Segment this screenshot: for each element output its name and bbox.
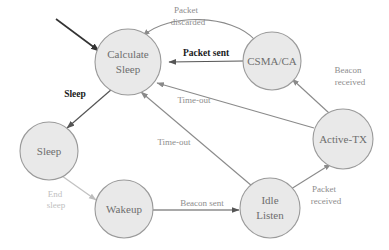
edge-active-to-csma (292, 79, 329, 113)
edge-label-packet-discarded-line1: Packet (174, 5, 198, 15)
edge-label-packet-received-line2: received (311, 196, 342, 206)
edge-start-entry (56, 19, 99, 51)
edge-label-beacon-received-line2: received (335, 77, 366, 87)
edge-label-packet-discarded-line2: discarded (171, 17, 206, 27)
node-idle-listen-label-line1: Idle (261, 194, 278, 206)
node-sleep[interactable]: Sleep (20, 122, 78, 180)
node-calculate-sleep-label-line2: Sleep (116, 63, 141, 75)
node-calculate-sleep-label-line1: Calculate (107, 48, 149, 60)
node-calculate-sleep[interactable]: Calculate Sleep (95, 29, 161, 95)
edge-csma-to-calculate-sent (169, 61, 243, 62)
node-idle-listen[interactable]: Idle Listen (240, 178, 300, 238)
node-csma-ca-label: CSMA/CA (247, 55, 297, 67)
node-wakeup[interactable]: Wakeup (95, 180, 153, 238)
node-idle-listen-label-line2: Listen (256, 209, 284, 221)
edge-label-time-out-upper: Time-out (177, 95, 211, 105)
node-wakeup-label: Wakeup (106, 203, 142, 215)
edge-label-end-sleep-line2: sleep (47, 200, 66, 210)
edge-label-sleep: Sleep (64, 89, 86, 99)
edge-active-to-calculate-timeout (157, 83, 314, 128)
node-csma-ca[interactable]: CSMA/CA (243, 32, 301, 90)
edge-label-end-sleep-line1: End (48, 189, 63, 199)
edge-label-beacon-received-line1: Beacon (335, 65, 362, 75)
edge-sleep-to-wakeup (62, 176, 96, 200)
node-active-tx[interactable]: Active-TX (313, 109, 373, 169)
edge-label-time-out-lower: Time-out (157, 137, 191, 147)
node-sleep-label: Sleep (37, 145, 62, 157)
edge-label-packet-received-line1: Packet (312, 184, 336, 194)
node-active-tx-label: Active-TX (319, 133, 367, 145)
diagram-canvas: Calculate Sleep CSMA/CA Active-TX Sleep … (0, 0, 389, 250)
state-diagram: Calculate Sleep CSMA/CA Active-TX Sleep … (0, 0, 389, 250)
edge-label-packet-sent: Packet sent (183, 48, 230, 58)
edge-label-beacon-sent: Beacon sent (180, 198, 224, 208)
